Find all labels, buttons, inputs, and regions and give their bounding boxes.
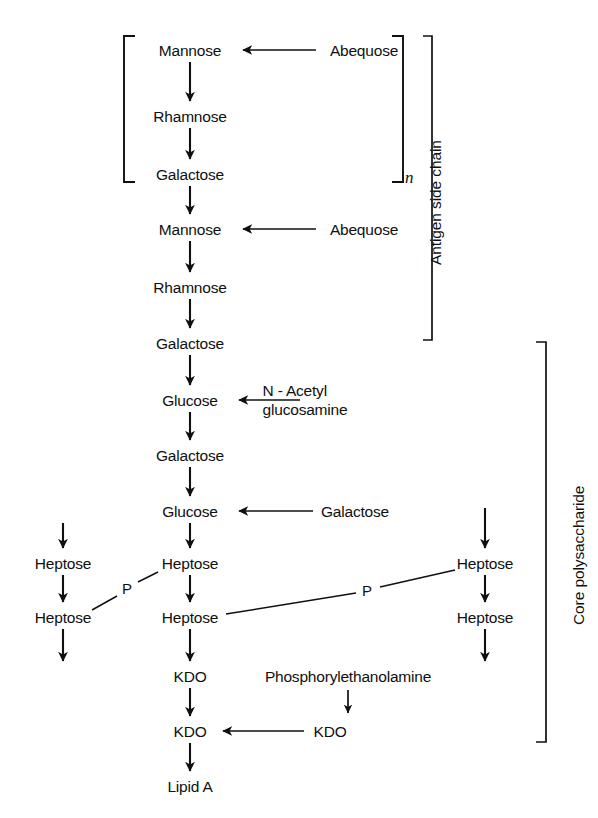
node-n-acetylglucosamine: N - Acetyl glucosamine (263, 381, 348, 419)
core-polysaccharide-bracket (536, 342, 546, 742)
node-heptose-center-1: Heptose (162, 555, 218, 572)
node-heptose-right-1: Heptose (457, 555, 513, 572)
node-mannose-2: Mannose (159, 221, 221, 238)
phosphate-bridge-lines (92, 570, 455, 614)
node-lipid-a: Lipid A (167, 778, 212, 795)
node-rhamnose-1: Rhamnose (153, 108, 226, 125)
phosphate-label-left: P (122, 580, 132, 597)
node-heptose-left-2: Heptose (35, 609, 91, 626)
node-glucose-1: Glucose (162, 392, 217, 409)
node-galactose-1: Galactose (156, 166, 224, 183)
n-acetylglucosamine-line-1: N - Acetyl (263, 381, 348, 400)
node-kdo-substituent: KDO (314, 723, 347, 740)
node-galactose-3: Galactose (156, 447, 224, 464)
node-kdo-2: KDO (174, 723, 207, 740)
node-abequose-2: Abequose (330, 221, 398, 238)
node-galactose-2: Galactose (156, 335, 224, 352)
repeat-unit-subscript-n: n (405, 168, 414, 188)
node-heptose-center-2: Heptose (162, 609, 218, 626)
node-heptose-right-2: Heptose (457, 609, 513, 626)
node-mannose-1: Mannose (159, 42, 221, 59)
node-galactose-substituent: Galactose (321, 503, 389, 520)
phosphate-label-right: P (362, 582, 372, 599)
antigen-side-chain-label: Antigen side chain (427, 140, 445, 265)
node-abequose-1: Abequose (330, 42, 398, 59)
node-heptose-left-1: Heptose (35, 555, 91, 572)
node-phosphorylethanolamine: Phosphorylethanolamine (265, 668, 431, 685)
node-rhamnose-2: Rhamnose (153, 279, 226, 296)
node-glucose-2: Glucose (162, 503, 217, 520)
node-kdo-1: KDO (174, 668, 207, 685)
lps-structure-diagram: Mannose Rhamnose Galactose Mannose Rhamn… (0, 0, 598, 818)
core-polysaccharide-label: Core polysaccharide (570, 486, 588, 625)
n-acetylglucosamine-line-2: glucosamine (263, 400, 348, 419)
